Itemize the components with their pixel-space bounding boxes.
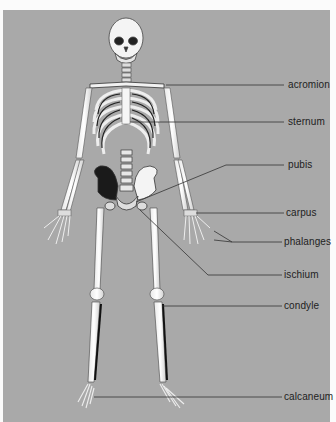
leader-phalanges [214, 231, 282, 242]
leader-pubis [136, 165, 284, 202]
label-ischium: ischium [284, 269, 319, 281]
leader-lines [94, 85, 284, 397]
legs [88, 208, 168, 382]
cervical-spine [122, 63, 131, 82]
leader-ischium [140, 210, 282, 275]
hands [44, 210, 210, 244]
label-condyle: condyle [284, 300, 319, 312]
label-acromion: acromion [288, 79, 330, 91]
label-carpus: carpus [286, 207, 317, 219]
label-sternum: sternum [288, 116, 325, 128]
lumbar-spine [120, 150, 133, 191]
skull [109, 18, 143, 64]
shoulder-girdle [90, 82, 164, 88]
label-phalanges: phalanges [284, 236, 331, 248]
label-pubis: pubis [288, 159, 312, 171]
feet [78, 384, 184, 408]
label-calcaneum: calcaneum [284, 391, 333, 403]
sternum-bone [122, 88, 130, 124]
